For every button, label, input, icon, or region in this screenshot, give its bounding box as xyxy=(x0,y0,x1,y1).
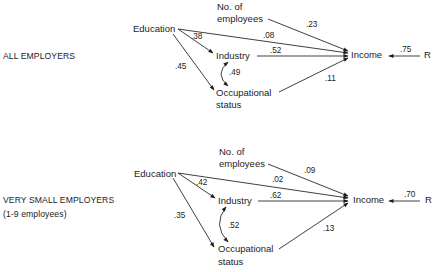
node-residual: R xyxy=(424,49,431,60)
node-industry: Industry xyxy=(218,195,252,206)
coef-industry-occupational-correlation: .49 xyxy=(229,68,240,78)
coef-employees-income: .23 xyxy=(306,20,317,30)
node-income: Income xyxy=(353,194,384,205)
coef-residual-income: .70 xyxy=(404,190,415,200)
panel-title: VERY SMALL EMPLOYERS xyxy=(3,194,114,206)
all-employers-arrows xyxy=(173,19,420,92)
coef-industry-occupational-correlation: .52 xyxy=(228,221,239,231)
node-occupational-line1: Occupational xyxy=(216,87,271,98)
node-employees-line2: employees xyxy=(219,158,265,169)
coef-industry-income: .52 xyxy=(270,46,281,56)
panel-subtitle: (1-9 employees) xyxy=(3,208,67,220)
node-employees-line1: No. of xyxy=(219,146,244,157)
coef-occupational-income: .13 xyxy=(323,224,334,234)
node-income: Income xyxy=(351,49,382,60)
node-industry: Industry xyxy=(216,50,250,61)
node-occupational-line2: status xyxy=(216,99,241,110)
node-employees-line1: No. of xyxy=(217,1,242,12)
panel-title: ALL EMPLOYERS xyxy=(3,50,75,62)
node-education: Education xyxy=(133,23,175,34)
node-employees-line2: employees xyxy=(217,13,263,24)
coef-employees-income: .09 xyxy=(304,166,315,176)
coef-education-industry: .38 xyxy=(191,32,202,42)
coef-education-industry: .42 xyxy=(196,178,207,188)
coef-residual-income: .75 xyxy=(400,45,411,55)
coef-education-income: .08 xyxy=(263,31,274,41)
coef-education-occupational: .45 xyxy=(175,62,186,72)
node-occupational-line1: Occupational xyxy=(218,243,273,254)
coef-occupational-income: .11 xyxy=(325,74,336,84)
path-diagram-arrows xyxy=(0,0,436,272)
coef-education-occupational: .35 xyxy=(174,211,185,221)
coef-industry-income: .62 xyxy=(270,191,281,201)
node-residual: R xyxy=(425,194,432,205)
coef-education-income: .02 xyxy=(272,175,283,185)
very-small-employers-arrows xyxy=(173,164,420,249)
node-occupational-line2: status xyxy=(218,256,243,267)
node-education: Education xyxy=(134,168,176,179)
